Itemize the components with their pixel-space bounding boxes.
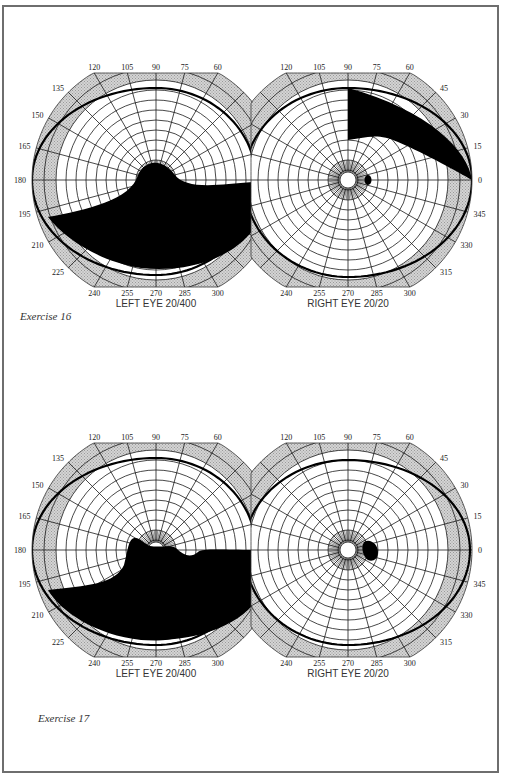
tick-label-150: 150 (31, 111, 43, 120)
left-eye-field-ex16: 1201059075601351501651801952102252402552… (14, 51, 285, 309)
tick-label-285: 285 (371, 289, 383, 298)
right-eye-label: RIGHT EYE 20/20 (307, 668, 389, 679)
tick-label-195: 195 (18, 210, 30, 219)
tick-label-60: 60 (406, 63, 414, 72)
blind-spot (365, 175, 372, 185)
caption-exercise-17: Exercise 17 (38, 712, 89, 724)
tick-label-90: 90 (344, 433, 352, 442)
tick-label-180: 180 (14, 176, 26, 185)
tick-label-300: 300 (212, 289, 224, 298)
tick-label-15: 15 (474, 512, 482, 521)
tick-label-345: 345 (474, 210, 486, 219)
tick-label-270: 270 (342, 289, 354, 298)
tick-label-315: 315 (440, 268, 452, 277)
right-eye-label: RIGHT EYE 20/20 (307, 298, 389, 309)
tick-label-45: 45 (440, 84, 448, 93)
tick-label-240: 240 (280, 289, 292, 298)
tick-label-255: 255 (121, 289, 133, 298)
tick-label-30: 30 (461, 111, 469, 120)
tick-label-210: 210 (31, 241, 43, 250)
tick-label-120: 120 (88, 433, 100, 442)
tick-label-90: 90 (152, 433, 160, 442)
tick-label-30: 30 (461, 481, 469, 490)
tick-label-75: 75 (181, 63, 189, 72)
tick-label-90: 90 (344, 63, 352, 72)
tick-label-255: 255 (313, 289, 325, 298)
right-eye-field-ex16: 1201059075604530150345330315240255270285… (219, 51, 486, 309)
tick-label-255: 255 (121, 659, 133, 668)
tick-label-270: 270 (150, 659, 162, 668)
tick-label-0: 0 (478, 546, 482, 555)
tick-label-165: 165 (18, 512, 30, 521)
tick-label-15: 15 (474, 142, 482, 151)
tick-label-45: 45 (440, 454, 448, 463)
tick-label-60: 60 (406, 433, 414, 442)
tick-label-60: 60 (214, 63, 222, 72)
tick-label-165: 165 (18, 142, 30, 151)
tick-label-240: 240 (88, 659, 100, 668)
tick-label-75: 75 (373, 433, 381, 442)
fixation-circle (340, 172, 356, 188)
tick-label-270: 270 (150, 289, 162, 298)
fixation-circle (340, 542, 356, 558)
tick-label-120: 120 (88, 63, 100, 72)
tick-label-270: 270 (342, 659, 354, 668)
left-eye-label: LEFT EYE 20/400 (116, 668, 197, 679)
tick-label-0: 0 (478, 176, 482, 185)
tick-label-75: 75 (373, 63, 381, 72)
tick-label-300: 300 (212, 659, 224, 668)
tick-label-75: 75 (181, 433, 189, 442)
tick-label-120: 120 (280, 63, 292, 72)
tick-label-300: 300 (404, 659, 416, 668)
tick-label-330: 330 (461, 241, 473, 250)
tick-label-120: 120 (280, 433, 292, 442)
tick-label-225: 225 (52, 638, 64, 647)
tick-label-90: 90 (152, 63, 160, 72)
tick-label-240: 240 (88, 289, 100, 298)
tick-label-135: 135 (52, 84, 64, 93)
tick-label-105: 105 (313, 63, 325, 72)
tick-label-330: 330 (461, 611, 473, 620)
tick-label-285: 285 (179, 659, 191, 668)
tick-label-150: 150 (31, 481, 43, 490)
tick-label-105: 105 (121, 433, 133, 442)
tick-label-345: 345 (474, 580, 486, 589)
tick-label-210: 210 (31, 611, 43, 620)
tick-label-105: 105 (121, 63, 133, 72)
tick-label-180: 180 (14, 546, 26, 555)
visual-field-diagrams: 1201059075601351501651801952102252402552… (0, 0, 505, 780)
tick-label-240: 240 (280, 659, 292, 668)
left-eye-field-ex17: 1201059075601351501651801952102252402552… (14, 421, 285, 679)
tick-label-315: 315 (440, 638, 452, 647)
tick-label-285: 285 (371, 659, 383, 668)
right-eye-field-ex17: 1201059075604530150345330315240255270285… (219, 421, 486, 679)
tick-label-60: 60 (214, 433, 222, 442)
caption-exercise-16: Exercise 16 (20, 310, 71, 322)
tick-label-105: 105 (313, 433, 325, 442)
tick-label-195: 195 (18, 580, 30, 589)
tick-label-285: 285 (179, 289, 191, 298)
tick-label-135: 135 (52, 454, 64, 463)
left-eye-label: LEFT EYE 20/400 (116, 298, 197, 309)
tick-label-225: 225 (52, 268, 64, 277)
tick-label-255: 255 (313, 659, 325, 668)
tick-label-300: 300 (404, 289, 416, 298)
